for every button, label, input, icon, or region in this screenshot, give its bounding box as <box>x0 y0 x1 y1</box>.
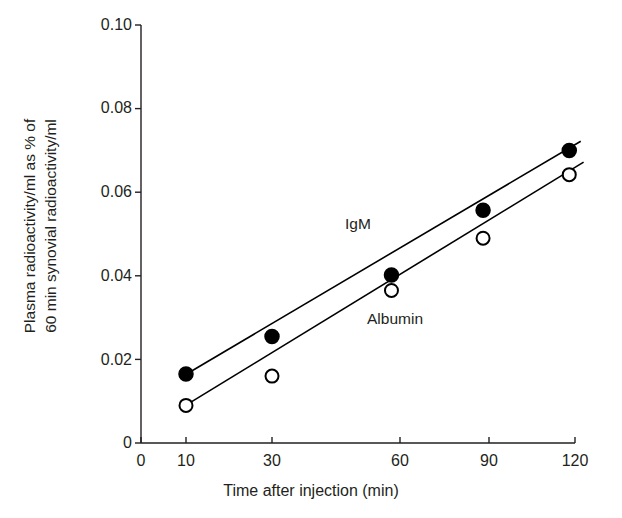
data-point-igm <box>265 329 279 343</box>
chart-figure: Plasma radioactivity/ml as % of 60 min s… <box>0 0 622 518</box>
plot-area <box>0 0 622 518</box>
trend-line-albumin <box>182 162 584 408</box>
trend-line-igm <box>182 141 581 377</box>
data-point-igm <box>562 143 576 157</box>
data-point-igm <box>476 203 490 217</box>
data-point-albumin <box>477 232 490 245</box>
data-point-albumin <box>563 168 576 181</box>
data-point-albumin <box>266 370 279 383</box>
data-point-igm <box>179 367 193 381</box>
data-point-albumin <box>385 284 398 297</box>
data-point-albumin <box>180 399 193 412</box>
